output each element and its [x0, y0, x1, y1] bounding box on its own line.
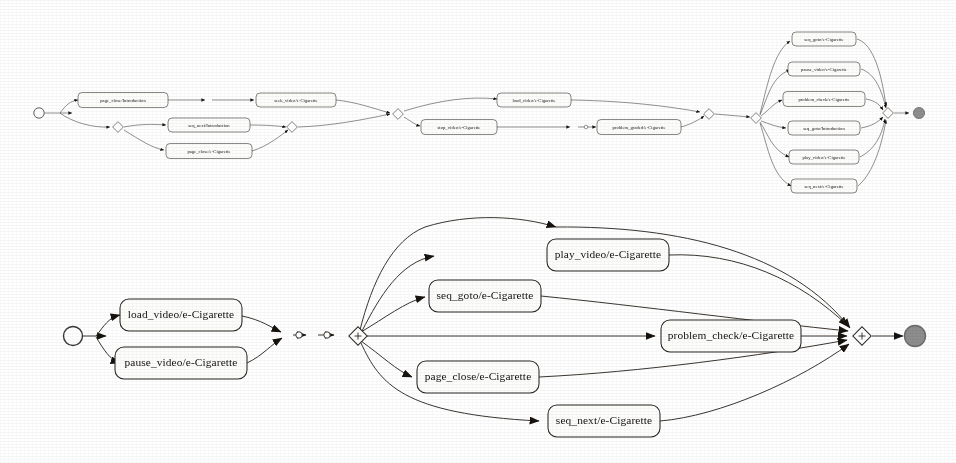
- activity-node-label: pause_video/e-Cigarette: [125, 356, 238, 368]
- activity-node-label: problem_check/e-Cigarette: [798, 97, 849, 102]
- process-diagram-svg: page_close/Introductionseq_next/Introduc…: [0, 0, 956, 463]
- top-activity-nodes: page_close/Introductionseq_next/Introduc…: [78, 32, 865, 193]
- edge-dot: [324, 332, 330, 338]
- activity-node[interactable]: stop_video/e-Cigarette: [421, 120, 497, 135]
- gateway-diamond: [853, 327, 871, 345]
- activity-node-label: play_video/e-Cigarette: [802, 155, 845, 160]
- activity-node[interactable]: load_video/e-Cigarette: [497, 93, 571, 107]
- top-end-node: [913, 107, 924, 118]
- activity-node[interactable]: problem_check/e-Cigarette: [783, 92, 865, 107]
- activity-node-label: play_video/e-Cigarette: [555, 248, 662, 260]
- activity-node-label: seq_goto/e-Cigarette: [804, 37, 843, 42]
- activity-node-label: page_close/e-Cigarette: [187, 149, 230, 154]
- activity-node[interactable]: pause_video/e-Cigarette: [115, 347, 247, 379]
- activity-node[interactable]: page_close/Introduction: [78, 93, 168, 108]
- activity-node-label: load_video/e-Cigarette: [512, 98, 555, 103]
- activity-node-label: seq_next/Introduction: [188, 123, 230, 128]
- activity-node-label: problem_graded/e-Cigarette: [612, 125, 665, 130]
- activity-node-label: seq_next/e-Cigarette: [556, 414, 652, 426]
- activity-node-label: stop_video/e-Cigarette: [438, 125, 481, 130]
- activity-node[interactable]: seq_next/e-Cigarette: [791, 179, 857, 193]
- activity-node[interactable]: seq_goto/e-Cigarette: [792, 32, 856, 46]
- activity-node-label: seek_video/e-Cigarette: [274, 98, 317, 103]
- activity-node[interactable]: problem_graded/e-Cigarette: [597, 120, 681, 135]
- edge-dot: [296, 332, 302, 338]
- gateway-diamond: [393, 109, 404, 120]
- activity-node[interactable]: seq_next/e-Cigarette: [548, 405, 660, 437]
- activity-node[interactable]: page_close/e-Cigarette: [417, 361, 539, 393]
- bottom-start-node: [64, 327, 83, 346]
- bottom-process-model: load_video/e-Cigarettepause_video/e-Ciga…: [64, 218, 926, 437]
- activity-node[interactable]: problem_check/e-Cigarette: [661, 320, 801, 352]
- activity-node-label: load_video/e-Cigarette: [128, 308, 235, 320]
- activity-node-label: problem_check/e-Cigarette: [668, 329, 794, 341]
- edge-dot: [584, 125, 588, 129]
- activity-node[interactable]: seq_goto/Introduction: [788, 121, 860, 135]
- gateway-diamond: [751, 113, 762, 124]
- activity-node[interactable]: seek_video/e-Cigarette: [256, 93, 336, 107]
- gateway-diamond: [883, 108, 894, 119]
- activity-node-label: page_close/Introduction: [100, 98, 146, 103]
- activity-node[interactable]: pause_video/e-Cigarette: [788, 62, 860, 76]
- top-edges: [45, 39, 910, 186]
- gateway-diamond: [113, 122, 124, 133]
- activity-node-label: page_close/e-Cigarette: [425, 370, 532, 382]
- activity-node[interactable]: page_close/e-Cigarette: [166, 144, 252, 159]
- activity-node-label: seq_goto/Introduction: [803, 126, 845, 131]
- activity-node-label: seq_next/e-Cigarette: [804, 184, 843, 189]
- process-model-canvas: page_close/Introductionseq_next/Introduc…: [0, 0, 956, 463]
- activity-node[interactable]: load_video/e-Cigarette: [120, 299, 242, 331]
- activity-node[interactable]: seq_goto/e-Cigarette: [429, 280, 541, 312]
- bottom-end-node: [905, 326, 926, 347]
- gateway-diamond: [287, 122, 298, 133]
- activity-node[interactable]: play_video/e-Cigarette: [789, 150, 859, 164]
- top-start-node: [34, 108, 44, 118]
- top-process-model: page_close/Introductionseq_next/Introduc…: [34, 32, 925, 193]
- bottom-activity-nodes: load_video/e-Cigarettepause_video/e-Ciga…: [115, 239, 801, 437]
- activity-node[interactable]: seq_next/Introduction: [168, 118, 250, 132]
- activity-node-label: seq_goto/e-Cigarette: [437, 289, 534, 301]
- activity-node[interactable]: play_video/e-Cigarette: [547, 239, 669, 271]
- activity-node-label: pause_video/e-Cigarette: [801, 67, 847, 72]
- gateway-diamond: [704, 109, 715, 120]
